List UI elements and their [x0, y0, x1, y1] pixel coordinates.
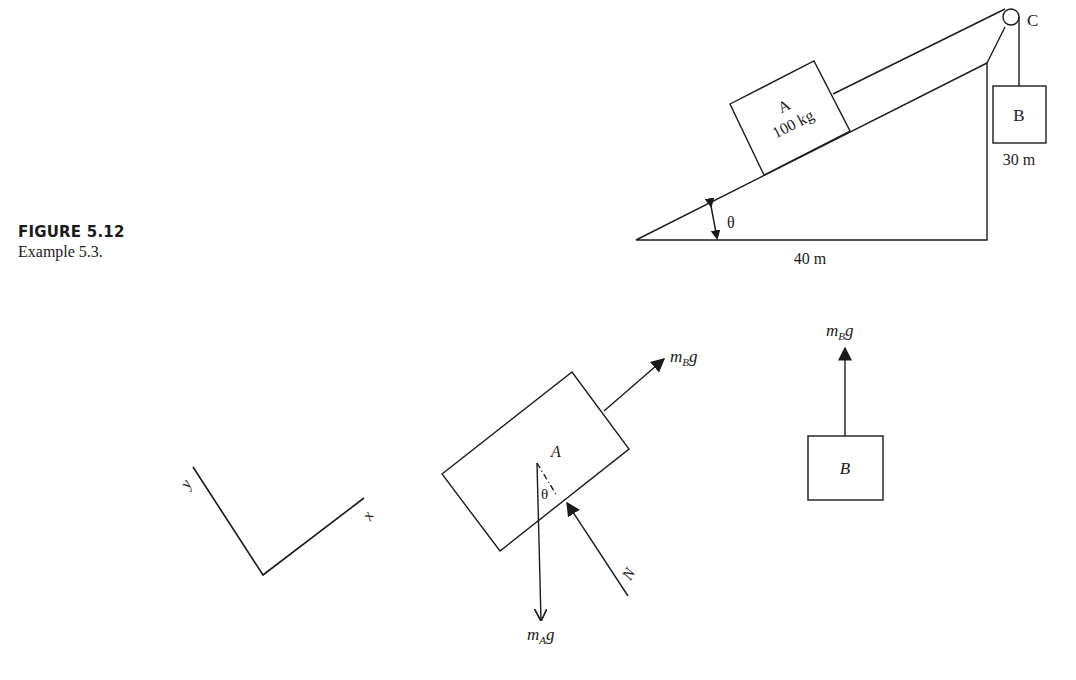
base-label: 40 m: [794, 250, 827, 267]
rope-a: [833, 9, 1005, 94]
x-axis-label: x: [358, 508, 377, 524]
normal-arrow: [567, 503, 628, 596]
fbd-b-block-label: B: [840, 459, 851, 478]
fbd-a-block-label: A: [550, 443, 561, 460]
axes-lines: [193, 467, 364, 575]
fbd-a-weight-label: mAg: [527, 625, 555, 646]
fbd-a-normal-label: N: [618, 564, 639, 584]
fbd-b-force-label: mBg: [826, 321, 854, 342]
incline-system: [636, 9, 1046, 240]
theta-arrow: [711, 206, 717, 238]
physics-figure: C A 100 kg B 30 m θ 40 m y x A θ mBg mAg: [0, 0, 1076, 680]
tension-arrow: [604, 359, 664, 411]
pulley-support: [987, 27, 1005, 63]
fbd-a-tension-label: mBg: [670, 347, 698, 368]
rotated-axes: [193, 467, 364, 575]
theta-label: θ: [727, 214, 735, 231]
pulley-label: C: [1027, 11, 1038, 30]
y-axis-label: y: [175, 476, 196, 494]
height-label: 30 m: [1003, 151, 1036, 168]
pulley-c: [1003, 9, 1019, 25]
fbd-a-theta: θ: [541, 486, 548, 502]
block-b-name: B: [1013, 106, 1024, 125]
fbd-a-block: [442, 372, 629, 551]
